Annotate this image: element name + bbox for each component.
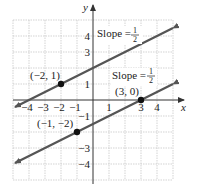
- coordinate-plane: x y −4 −3 −2 −1 1 3 4 4 3 1 −1 −3 −4 (−2…: [0, 0, 198, 188]
- point-label-c: (−1, −2): [37, 117, 74, 130]
- svg-text:Slope =: Slope =: [112, 69, 146, 81]
- svg-text:4: 4: [154, 101, 160, 113]
- svg-text:4: 4: [85, 30, 91, 42]
- slope-annotation-lower: Slope = 1 2: [111, 67, 157, 86]
- svg-text:Slope =: Slope =: [97, 27, 131, 39]
- svg-text:−3: −3: [78, 142, 90, 154]
- svg-text:3: 3: [85, 46, 91, 58]
- svg-text:2: 2: [149, 76, 153, 85]
- point-label-b: (3, 0): [115, 85, 139, 98]
- point-neg1-neg2: [74, 129, 80, 135]
- x-axis-label: x: [180, 101, 186, 113]
- svg-text:2: 2: [133, 35, 137, 44]
- svg-text:1: 1: [85, 78, 91, 90]
- slope-annotation-upper: Slope = 1 2: [96, 26, 142, 44]
- svg-text:1: 1: [133, 26, 137, 35]
- svg-text:−2: −2: [53, 101, 65, 113]
- svg-text:−1: −1: [78, 110, 90, 122]
- point-neg2-1: [58, 81, 64, 87]
- svg-text:−4: −4: [78, 158, 90, 170]
- point-label-a: (−2, 1): [30, 69, 60, 82]
- svg-text:1: 1: [106, 101, 112, 113]
- svg-text:−3: −3: [37, 101, 49, 113]
- point-3-0: [138, 97, 144, 103]
- y-axis-label: y: [82, 1, 88, 13]
- x-tick-labels: −4 −3 −2 −1 1 3 4: [21, 101, 160, 113]
- svg-text:1: 1: [149, 67, 153, 76]
